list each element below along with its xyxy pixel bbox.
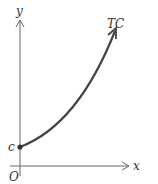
- intercept-label: c: [8, 140, 15, 154]
- y-axis-label: y: [15, 4, 23, 18]
- origin-label: O: [9, 170, 19, 184]
- tc-diagram: y x O c TC: [0, 0, 158, 184]
- tc-curve: [20, 31, 115, 147]
- x-axis-label: x: [133, 159, 140, 173]
- intercept-point: [17, 144, 22, 149]
- curve-label: TC: [107, 17, 124, 31]
